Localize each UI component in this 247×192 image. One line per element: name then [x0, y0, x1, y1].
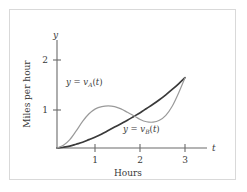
x-tick-label-1: 1 — [92, 155, 98, 165]
curve-v-a — [57, 78, 185, 148]
curve-a-label: y = vA(t) — [65, 77, 103, 88]
y-axis-symbol: y — [52, 30, 59, 40]
chart-plot: 1 2 1 2 3 y t Hours Miles per hour y = v… — [0, 0, 247, 192]
x-axis-symbol: t — [212, 143, 216, 153]
x-axis-title: Hours — [114, 168, 142, 178]
y-tick-label-1: 1 — [42, 105, 48, 115]
y-axis-title: Miles per hour — [22, 60, 32, 128]
curve-v-b — [57, 78, 185, 148]
x-tick-label-3: 3 — [182, 155, 188, 165]
curve-b-label: y = vB(t) — [122, 124, 160, 135]
y-tick-label-2: 2 — [42, 55, 48, 65]
x-tick-label-2: 2 — [137, 155, 143, 165]
figure-container: 1 2 1 2 3 y t Hours Miles per hour y = v… — [0, 0, 247, 192]
